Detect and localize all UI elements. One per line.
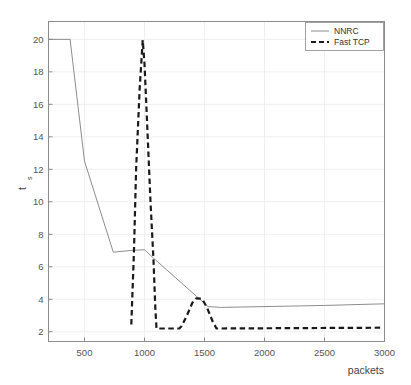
legend-label-fast-tcp: Fast TCP [334,37,370,47]
x-tick-label: 2000 [254,347,275,358]
x-tick-label: 1000 [134,347,155,358]
x-tick-label: 2500 [314,347,335,358]
x-tick-label: 3000 [374,347,395,358]
y-tick-label: 6 [38,261,43,272]
y-tick-label: 8 [38,229,43,240]
y-tick-label: 12 [33,164,44,175]
y-tick-label: 16 [33,99,44,110]
y-tick-label: 18 [33,66,44,77]
x-axis-title: packets [348,364,384,376]
y-tick-label: 4 [38,294,43,305]
y-axis-title-base: t [16,187,28,190]
x-tick-label: 1500 [194,347,215,358]
y-tick-label: 10 [33,196,44,207]
y-axis-title-subscript: s [26,176,33,180]
line-chart: 2468101214161820 50010001500200025003000… [0,0,411,385]
y-tick-label: 14 [33,131,44,142]
chart-figure: 2468101214161820 50010001500200025003000… [0,0,411,385]
y-tick-label: 20 [33,34,44,45]
legend-label-nnrc: NNRC [334,26,359,36]
y-tick-label: 2 [38,326,43,337]
legend: NNRC Fast TCP [306,23,384,51]
x-tick-label: 500 [77,347,93,358]
